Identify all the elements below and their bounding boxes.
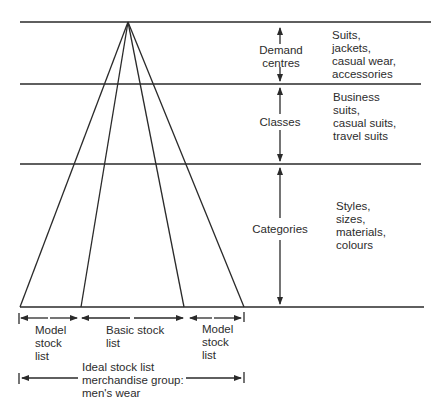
level-label-demand-centres: Demand centres — [256, 44, 306, 70]
level-examples-classes: Business suits, casual suits, travel sui… — [333, 91, 396, 143]
segment-label-model-right: Model stock list — [202, 323, 233, 362]
level-examples-categories: Styles, sizes, materials, colours — [336, 200, 386, 252]
segment-label-basic: Basic stock list — [106, 324, 164, 350]
level-label-classes: Classes — [250, 116, 310, 129]
segment-label-model-left: Model stock list — [35, 324, 66, 363]
span-label-ideal-stock-list: Ideal stock list merchandise group: men'… — [82, 361, 184, 400]
level-label-categories: Categories — [250, 223, 310, 236]
level-examples-demand-centres: Suits, jackets, casual wear, accessories — [332, 29, 396, 81]
